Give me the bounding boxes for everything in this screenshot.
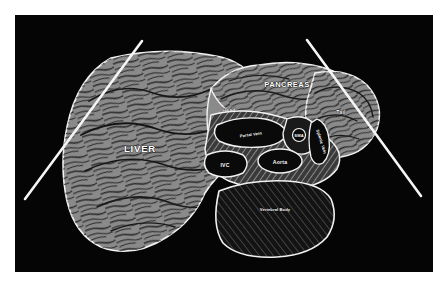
- label-ivc: IVC: [220, 162, 229, 168]
- anatomy-illustration: LIVER PANCREAS Head: [15, 15, 433, 272]
- structure-portal-vein: Portal Vein: [214, 118, 287, 148]
- label-pancreas: PANCREAS: [264, 80, 309, 89]
- label-liver: LIVER: [124, 143, 156, 154]
- label-pancreas-tail: Tail: [336, 109, 346, 115]
- illustration-panel: LIVER PANCREAS Head: [15, 15, 433, 272]
- label-aorta: Aorta: [273, 159, 288, 165]
- label-sma: SMA: [294, 133, 303, 138]
- structure-aorta: Aorta: [258, 149, 302, 173]
- figure-page: LIVER PANCREAS Head: [0, 0, 448, 285]
- label-vertebral-body: Vertebral Body: [260, 207, 291, 212]
- vertebral-body-hatch: [207, 175, 347, 265]
- structure-vertebral-body: Vertebral Body: [207, 175, 347, 265]
- structure-ivc: IVC: [204, 151, 247, 177]
